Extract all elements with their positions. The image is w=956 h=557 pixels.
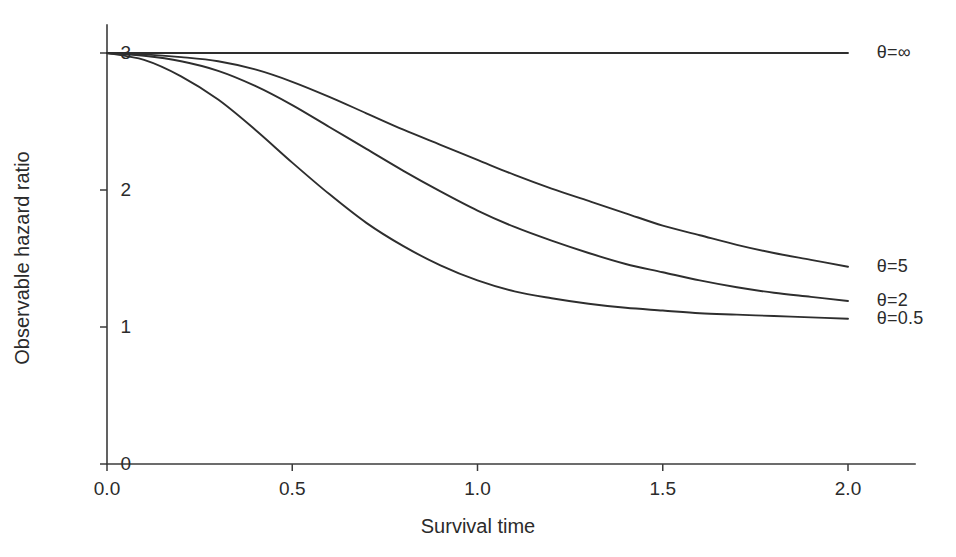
- y-tick-label: 1: [91, 316, 131, 338]
- x-axis-title: Survival time: [421, 515, 535, 538]
- curve-theta-2: [107, 53, 848, 301]
- x-tick-label: 1.0: [464, 478, 490, 500]
- plot-area: [0, 0, 956, 557]
- y-tick-label: 2: [91, 179, 131, 201]
- y-tick-label: 3: [91, 42, 131, 64]
- y-tick-label: 0: [91, 453, 131, 475]
- x-tick-label: 0.0: [94, 478, 120, 500]
- axes-group: [100, 25, 915, 471]
- curves-group: [107, 53, 848, 319]
- curve-theta-5: [107, 53, 848, 267]
- series-label-theta-infinity: θ=∞: [877, 42, 911, 63]
- x-tick-label: 1.5: [650, 478, 676, 500]
- curve-theta-0.5: [107, 53, 848, 319]
- x-tick-label: 0.5: [279, 478, 305, 500]
- y-axis-title: Observable hazard ratio: [11, 151, 34, 364]
- hazard-ratio-chart: 01230.00.51.01.52.0 Survival time Observ…: [0, 0, 956, 557]
- series-label-theta-5: θ=5: [877, 256, 908, 277]
- series-label-theta-0.5: θ=0.5: [877, 308, 924, 329]
- x-tick-label: 2.0: [835, 478, 861, 500]
